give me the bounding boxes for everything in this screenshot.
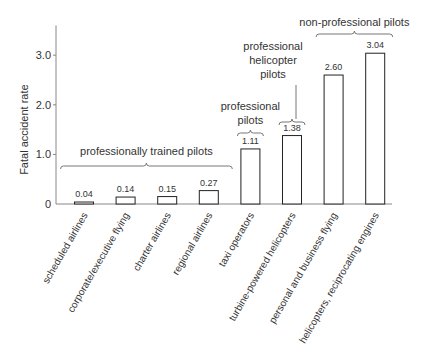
bar	[199, 191, 218, 204]
group-annotations: professionally trained pilotsprofessiona…	[61, 16, 410, 169]
bar	[283, 136, 302, 204]
bar	[324, 75, 343, 204]
group-label: non-professional pilots	[299, 16, 410, 28]
y-axis-title: Fatal accident rate	[18, 84, 30, 175]
group-brace	[61, 163, 233, 169]
bar	[366, 53, 385, 204]
group-label: helicopter	[249, 54, 297, 66]
y-tick-label: 2.0	[36, 99, 51, 111]
group-label: professionally trained pilots	[80, 145, 213, 157]
category-label: scheduled airlines	[40, 211, 90, 286]
bar-value-label: 1.11	[242, 136, 259, 146]
y-tick-label: 0	[45, 198, 51, 210]
bar-value-label: 0.15	[158, 184, 176, 194]
bar	[158, 197, 177, 204]
bar-chart: 01.02.03.0Fatal accident rate 0.04schedu…	[0, 0, 426, 363]
group-brace	[316, 31, 393, 37]
category-label: charter airlines	[131, 211, 173, 273]
bar	[116, 197, 135, 204]
y-tick-label: 3.0	[36, 49, 51, 61]
group-label: professional	[221, 100, 280, 112]
bar-value-label: 0.27	[200, 178, 218, 188]
bar-value-label: 3.04	[366, 40, 384, 50]
group-label: pilots	[238, 114, 264, 126]
bar	[75, 202, 94, 204]
category-label: helicopters, reciprocating engines	[297, 211, 381, 346]
group-label: pilots	[260, 68, 286, 80]
group-label: professional	[243, 40, 302, 52]
bar-value-label: 1.38	[283, 123, 301, 133]
category-label: taxi operators	[216, 211, 256, 269]
bar	[241, 149, 260, 204]
bar-value-label: 0.04	[75, 189, 93, 199]
y-tick-label: 1.0	[36, 148, 51, 160]
bar-value-label: 0.14	[117, 184, 135, 194]
category-label: regional airlines	[170, 211, 215, 277]
bar-value-label: 2.60	[325, 62, 343, 72]
bars: 0.04scheduled airlines0.14corporate/exec…	[40, 40, 385, 345]
